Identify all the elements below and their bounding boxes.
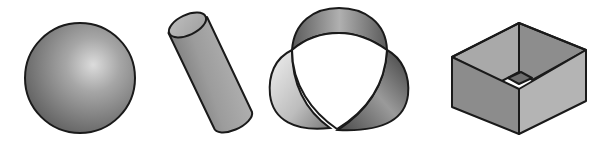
figure xyxy=(0,0,607,146)
trefoil-surface-shape xyxy=(270,8,409,130)
sphere-shape xyxy=(25,23,135,133)
open-box-shape xyxy=(452,23,586,134)
shapes-canvas xyxy=(0,0,607,146)
cylinder-shape xyxy=(165,7,252,132)
